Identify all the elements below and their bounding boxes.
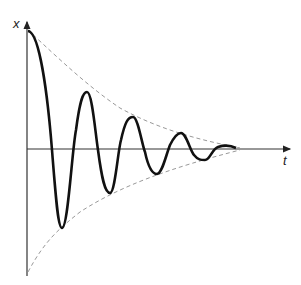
upper-envelope (28, 30, 240, 148)
lower-envelope (28, 150, 240, 272)
y-axis-label: x (13, 16, 20, 31)
damped-oscillation-diagram (0, 0, 301, 285)
oscillation-curve (28, 31, 236, 228)
x-axis-label: t (283, 153, 287, 168)
